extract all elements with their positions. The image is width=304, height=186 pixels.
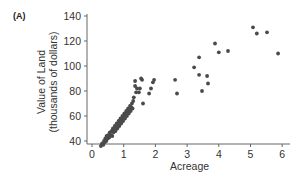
y-tick-label: 100 bbox=[63, 60, 81, 72]
data-point bbox=[251, 25, 255, 29]
data-point bbox=[131, 99, 135, 103]
x-tick-label: 0 bbox=[89, 148, 95, 160]
x-tick-label: 2 bbox=[152, 148, 158, 160]
y-tick-label: 140 bbox=[63, 10, 81, 22]
y-tick-label: 60 bbox=[69, 110, 81, 122]
x-tick-label: 1 bbox=[121, 148, 127, 160]
data-point bbox=[131, 107, 135, 111]
x-tick-label: 6 bbox=[279, 148, 285, 160]
data-point bbox=[173, 78, 177, 82]
data-point bbox=[197, 55, 201, 59]
data-point bbox=[133, 79, 137, 83]
y-tick-label: 80 bbox=[69, 85, 81, 97]
x-tick-label: 3 bbox=[184, 148, 190, 160]
data-point bbox=[213, 42, 217, 46]
data-point bbox=[147, 92, 151, 96]
data-point bbox=[226, 49, 230, 53]
data-point bbox=[140, 78, 144, 82]
data-points bbox=[99, 25, 280, 148]
data-point bbox=[137, 90, 141, 94]
scatter-plot: 4060801001201400123456 bbox=[0, 0, 304, 186]
data-point bbox=[110, 134, 114, 138]
x-tick-label: 4 bbox=[216, 148, 222, 160]
data-point bbox=[206, 82, 210, 86]
data-point bbox=[138, 87, 142, 91]
data-point bbox=[152, 78, 156, 82]
data-point bbox=[141, 102, 145, 106]
data-point bbox=[276, 52, 280, 56]
data-point bbox=[192, 65, 196, 69]
data-point bbox=[255, 32, 259, 36]
x-tick-label: 5 bbox=[248, 148, 254, 160]
data-point bbox=[175, 92, 179, 96]
y-tick-label: 40 bbox=[69, 135, 81, 147]
data-point bbox=[205, 74, 209, 78]
data-point bbox=[217, 50, 221, 54]
y-tick-label: 120 bbox=[63, 35, 81, 47]
data-point bbox=[200, 89, 204, 93]
data-point bbox=[265, 30, 269, 34]
data-point bbox=[149, 87, 153, 91]
data-point bbox=[197, 73, 201, 77]
data-point bbox=[132, 95, 136, 99]
